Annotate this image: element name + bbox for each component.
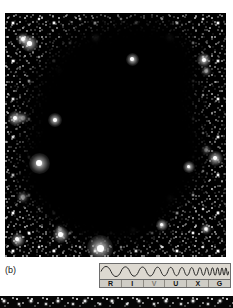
bright-star (130, 57, 134, 61)
brightest-star (97, 245, 104, 252)
bright-star (13, 116, 17, 120)
spectrum-band-gamma[interactable]: G (209, 280, 230, 287)
electromagnetic-spectrum-indicator: R I V U X G (99, 263, 231, 288)
strip-star-field-layer-2 (0, 296, 233, 308)
spectrum-band-xray[interactable]: X (187, 280, 209, 287)
bright-star (213, 156, 217, 160)
spectrum-band-labels: R I V U X G (100, 279, 230, 287)
bright-star (187, 165, 190, 168)
bright-star (15, 237, 19, 241)
spectrum-band-radio[interactable]: R (100, 280, 122, 287)
spectrum-band-visible[interactable]: V (144, 280, 166, 287)
spectrum-band-ultraviolet[interactable]: U (165, 280, 187, 287)
bright-star (36, 160, 42, 166)
dark-nebula-lobe-b (109, 29, 193, 103)
panel-label: (b) (5, 264, 16, 276)
dark-nebula-photograph (5, 13, 226, 257)
bright-star (53, 118, 57, 122)
spectrum-band-infrared[interactable]: I (122, 280, 144, 287)
bright-star (202, 58, 206, 62)
bright-star (27, 41, 32, 46)
bright-star (58, 232, 63, 237)
next-figure-top-edge (0, 296, 233, 308)
dark-nebula-lobe-d (125, 109, 195, 201)
spectrum-wave-icon (100, 264, 230, 279)
bright-star (160, 223, 163, 226)
